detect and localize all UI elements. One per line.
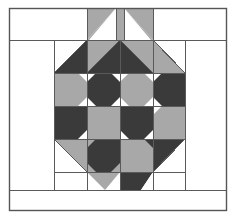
quilt-block-figure	[0, 0, 236, 219]
cell-r3c2-gray-snowball	[87, 106, 120, 139]
cell-r3c3-dark-snowball	[120, 106, 153, 139]
cell-r3c1-dark-snowball	[54, 106, 87, 139]
cell-r3c4-gray-snowball	[153, 106, 185, 139]
cell-r2c1-gray-snowball	[54, 73, 87, 106]
crown-band	[87, 8, 153, 40]
cell-r2c2-dark-snowball	[87, 73, 120, 106]
cell-r4c3-ground	[120, 139, 153, 172]
cell-r4c2-dark-shape	[87, 139, 120, 172]
crown-center-strip-patch	[116, 8, 124, 40]
cell-r2c4-dark-snowball	[153, 73, 185, 106]
quilt-block-drawing	[0, 0, 236, 219]
cell-r2c3-gray-snowball	[120, 73, 153, 106]
